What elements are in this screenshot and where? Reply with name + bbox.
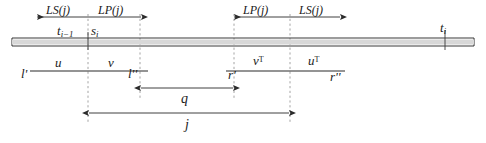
label-ls-left: LS(j) — [46, 4, 70, 16]
label-t-prev-sub: i−1 — [61, 29, 74, 39]
label-s-cur-sub: i — [96, 29, 98, 39]
label-endpoint-r-double-prime: r'' — [330, 70, 341, 83]
label-t-end-sub: i — [444, 26, 446, 36]
label-segment-u: u — [55, 56, 62, 69]
label-lp-left: LP(j) — [98, 4, 123, 16]
label-span-q: q — [181, 92, 188, 106]
label-endpoint-l-double-prime: l'' — [128, 67, 137, 80]
label-segment-v: v — [108, 56, 114, 69]
label-segment-u-transpose-sup: T — [315, 55, 320, 64]
label-endpoint-r-prime: r' — [228, 68, 236, 81]
label-ls-right: LS(j) — [299, 4, 323, 16]
figure-canvas: LS(j) LP(j) LP(j) LS(j) ti−1 si ti u v v… — [0, 0, 486, 143]
label-span-j: j — [185, 118, 189, 132]
diagram-svg — [0, 0, 486, 143]
label-segment-v-transpose-sup: T — [259, 55, 264, 64]
label-t-prev: ti−1 — [57, 24, 73, 39]
label-t-end: ti — [440, 21, 446, 36]
label-endpoint-l-prime: l' — [21, 67, 27, 80]
dashed-guides — [88, 14, 290, 122]
label-segment-u-transpose: uT — [308, 54, 319, 67]
main-axis-tube — [12, 38, 474, 46]
label-s-cur: si — [91, 24, 99, 39]
label-lp-right: LP(j) — [243, 4, 268, 16]
label-segment-v-transpose: vT — [253, 54, 264, 67]
